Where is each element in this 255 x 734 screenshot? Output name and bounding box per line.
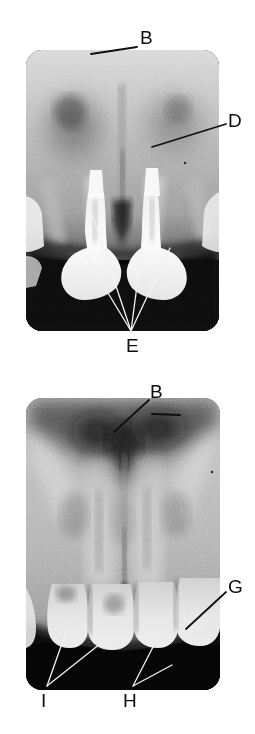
- bottom-radiograph: [26, 398, 220, 690]
- figure-root: B D E B G H I: [0, 0, 255, 734]
- label-b-top: B: [140, 28, 153, 47]
- bottom-radiograph-image: [26, 398, 220, 690]
- label-g-bottom: G: [228, 577, 243, 596]
- label-h-bottom: H: [123, 691, 137, 710]
- label-i-bottom: I: [41, 691, 46, 710]
- label-b-bottom: B: [150, 382, 163, 401]
- label-e-top: E: [126, 336, 139, 355]
- top-radiograph: [26, 50, 219, 331]
- top-radiograph-image: [26, 50, 219, 331]
- label-d-top: D: [228, 111, 242, 130]
